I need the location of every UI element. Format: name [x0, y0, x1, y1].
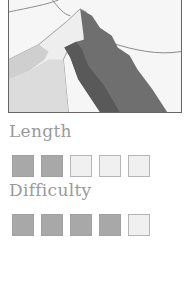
length-box-3: [70, 155, 92, 177]
difficulty-rating: [12, 214, 150, 236]
length-label: Length: [9, 121, 72, 141]
difficulty-box-5: [128, 214, 150, 236]
length-box-5: [128, 155, 150, 177]
mountain-icon: [9, 0, 181, 112]
length-rating: [12, 155, 150, 177]
difficulty-box-4: [99, 214, 121, 236]
length-box-1: [12, 155, 34, 177]
length-box-4: [99, 155, 121, 177]
length-box-2: [41, 155, 63, 177]
difficulty-label: Difficulty: [9, 180, 91, 200]
difficulty-box-2: [41, 214, 63, 236]
mountain-illustration: [8, 0, 182, 113]
difficulty-box-3: [70, 214, 92, 236]
difficulty-box-1: [12, 214, 34, 236]
